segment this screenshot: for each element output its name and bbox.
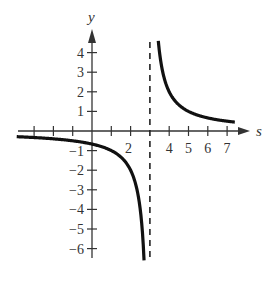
y-tick-label: −2	[69, 163, 84, 178]
y-tick-label: −6	[69, 242, 84, 257]
axes	[18, 29, 250, 258]
x-tick-label: 5	[185, 141, 192, 156]
y-tick-label: −1	[69, 144, 84, 159]
x-tick-label: 6	[204, 141, 211, 156]
x-tick-label: 2	[125, 141, 132, 156]
y-tick-label: 4	[77, 46, 84, 61]
y-tick-label: 1	[77, 104, 84, 119]
y-tick-label: 2	[77, 85, 84, 100]
x-tick-label: 4	[166, 141, 173, 156]
y-tick-label: −3	[69, 183, 84, 198]
y-tick-label: 3	[77, 65, 84, 80]
y-tick-label: −5	[69, 222, 84, 237]
hyperbola-plot: 245674321−1−2−3−4−5−6 s y	[0, 0, 280, 281]
y-axis-arrow-icon	[88, 29, 96, 43]
curve-right-branch	[158, 41, 235, 122]
x-tick-label: 7	[224, 141, 231, 156]
y-tick-label: −4	[69, 202, 84, 217]
y-axis-label: y	[86, 9, 95, 25]
x-axis-label: s	[256, 123, 262, 139]
x-axis-arrow-icon	[238, 127, 250, 135]
